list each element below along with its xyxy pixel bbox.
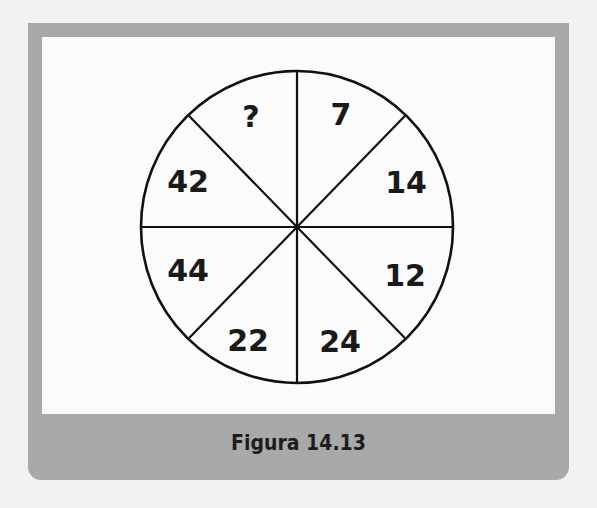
segment-label-14: 14 xyxy=(385,165,427,200)
segment-label-22: 22 xyxy=(227,323,269,358)
segment-label-12: 12 xyxy=(384,258,426,293)
segment-label-7: 7 xyxy=(331,97,352,132)
figure-caption: Figura 14.13 xyxy=(28,431,569,455)
segment-label-unknown: ? xyxy=(242,99,259,134)
figure-frame: ? 7 14 12 24 22 44 42 Figura 14.13 xyxy=(28,23,569,480)
number-wheel: ? 7 14 12 24 22 44 42 xyxy=(42,37,555,414)
segment-label-42: 42 xyxy=(167,164,209,199)
figure-canvas: ? 7 14 12 24 22 44 42 xyxy=(42,37,555,414)
segment-label-44: 44 xyxy=(167,253,209,288)
segment-label-24: 24 xyxy=(319,324,361,359)
